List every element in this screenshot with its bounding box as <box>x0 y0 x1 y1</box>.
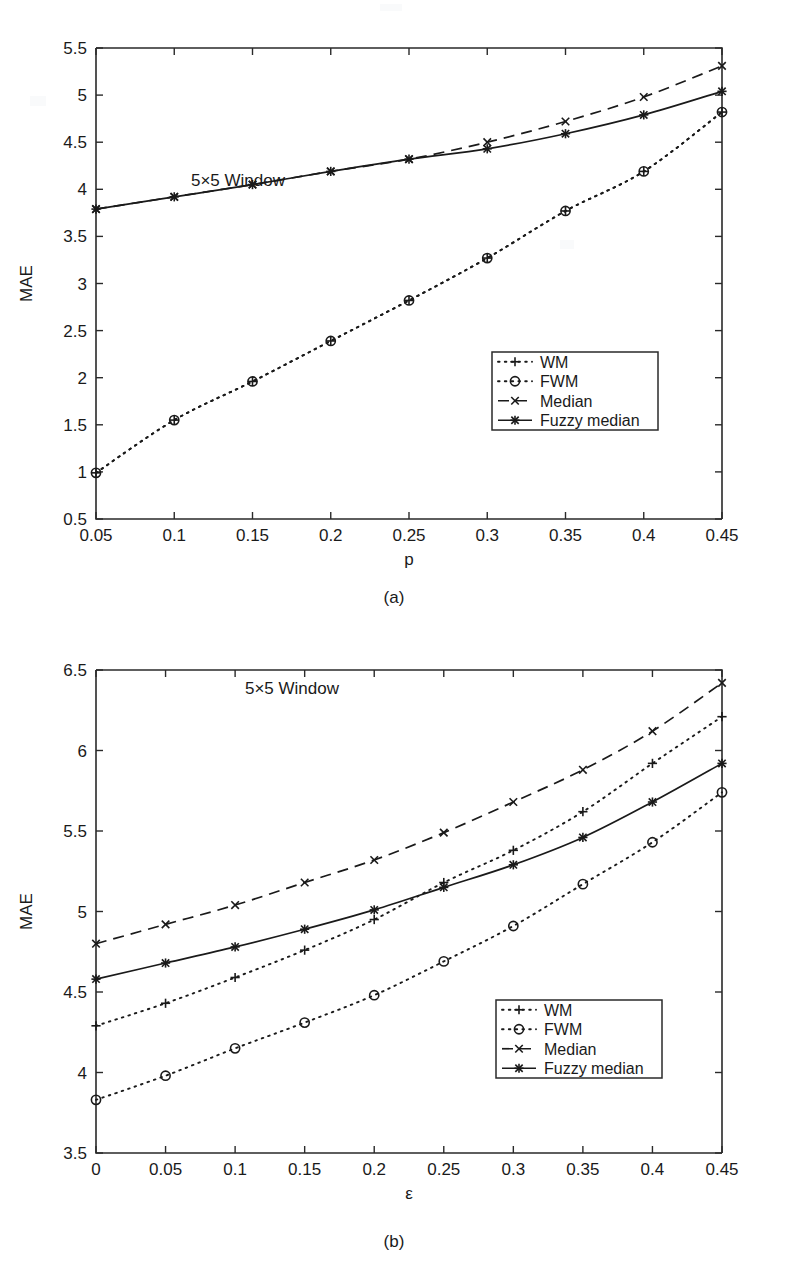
y-tick-label: 6.5 <box>63 661 87 680</box>
x-tick-label: 0.25 <box>392 526 425 545</box>
y-tick-label: 5 <box>78 903 87 922</box>
y-tick-label: 3 <box>78 275 87 294</box>
x-tick-label: 0.05 <box>149 1160 182 1179</box>
marker-circle <box>509 921 518 930</box>
chart-b-svg: 00.050.10.150.20.250.30.350.40.453.544.5… <box>0 628 788 1275</box>
marker-circle <box>370 991 379 1000</box>
marker-circle <box>578 880 587 889</box>
x-tick-label: 0.1 <box>223 1160 247 1179</box>
y-tick-label: 1.5 <box>63 416 87 435</box>
y-tick-label: 0.5 <box>63 510 87 529</box>
marker-circle <box>231 1044 240 1053</box>
axes-frame <box>96 670 722 1153</box>
series-path <box>96 66 722 209</box>
x-tick-label: 0 <box>91 1160 100 1179</box>
legend-label: FWM <box>540 373 578 390</box>
x-tick-label: 0.35 <box>566 1160 599 1179</box>
series-fuzzy-median <box>91 759 726 984</box>
axis-left-bottom <box>96 670 722 1153</box>
x-axis-title: p <box>404 550 413 569</box>
marker-circle <box>648 838 657 847</box>
x-axis-title: ε <box>405 1184 413 1203</box>
x-tick-label: 0.2 <box>362 1160 386 1179</box>
legend-label: Fuzzy median <box>540 412 640 429</box>
x-axis-ticks: 00.050.10.150.20.250.30.350.40.45 <box>91 670 738 1179</box>
chart-panel-a: 0.050.10.150.20.250.30.350.40.450.511.52… <box>0 0 788 628</box>
series-median <box>92 62 726 213</box>
x-tick-label: 0.15 <box>236 526 269 545</box>
legend-label: WM <box>544 1002 572 1019</box>
y-tick-label: 2.5 <box>63 322 87 341</box>
series-path <box>96 91 722 209</box>
y-axis-title: MAE <box>17 893 36 930</box>
y-tick-label: 4.5 <box>63 983 87 1002</box>
y-tick-label: 2 <box>78 369 87 388</box>
y-axis-title: MAE <box>17 265 36 302</box>
legend-label: Fuzzy median <box>544 1060 644 1077</box>
x-tick-label: 0.3 <box>475 526 499 545</box>
subcaption-a: (a) <box>0 588 788 608</box>
legend-label: Median <box>540 393 592 410</box>
y-tick-label: 4 <box>78 1064 87 1083</box>
series-wm <box>91 712 726 1030</box>
y-axis-ticks: 3.544.555.566.5 <box>63 661 722 1163</box>
x-tick-label: 0.1 <box>162 526 186 545</box>
y-tick-label: 3.5 <box>63 1144 87 1163</box>
y-tick-label: 4 <box>78 180 87 199</box>
y-tick-label: 6 <box>78 742 87 761</box>
chart-panel-b: 00.050.10.150.20.250.30.350.40.453.544.5… <box>0 628 788 1275</box>
legend: WMFWMMedianFuzzy median <box>496 1000 662 1078</box>
x-tick-label: 0.35 <box>549 526 582 545</box>
marker-circle <box>300 1018 309 1027</box>
x-tick-label: 0.4 <box>641 1160 665 1179</box>
series-path <box>96 683 722 944</box>
series-path <box>96 763 722 979</box>
y-axis-ticks: 0.511.522.533.544.555.5 <box>63 39 722 529</box>
y-tick-label: 1 <box>78 463 87 482</box>
chart-a-svg: 0.050.10.150.20.250.30.350.40.450.511.52… <box>0 0 788 628</box>
subcaption-b: (b) <box>0 1232 788 1252</box>
y-tick-label: 3.5 <box>63 227 87 246</box>
legend: WMFWMMedianFuzzy median <box>492 352 658 430</box>
x-tick-label: 0.15 <box>288 1160 321 1179</box>
axis-top-right <box>96 670 722 1153</box>
legend-label: FWM <box>544 1021 582 1038</box>
y-tick-label: 5 <box>78 86 87 105</box>
y-tick-label: 5.5 <box>63 39 87 58</box>
y-tick-label: 4.5 <box>63 133 87 152</box>
series-fuzzy-median <box>91 87 726 214</box>
window-annotation: 5×5 Window <box>245 679 340 698</box>
legend-label: Median <box>544 1041 596 1058</box>
x-tick-label: 0.2 <box>319 526 343 545</box>
figure-container: 0.050.10.150.20.250.30.350.40.450.511.52… <box>0 0 788 1275</box>
marker-circle <box>161 1071 170 1080</box>
x-tick-label: 0.25 <box>427 1160 460 1179</box>
x-tick-label: 0.45 <box>705 526 738 545</box>
legend-label: WM <box>540 354 568 371</box>
y-tick-label: 5.5 <box>63 822 87 841</box>
x-tick-label: 0.45 <box>705 1160 738 1179</box>
x-tick-label: 0.4 <box>632 526 656 545</box>
x-tick-label: 0.3 <box>502 1160 526 1179</box>
